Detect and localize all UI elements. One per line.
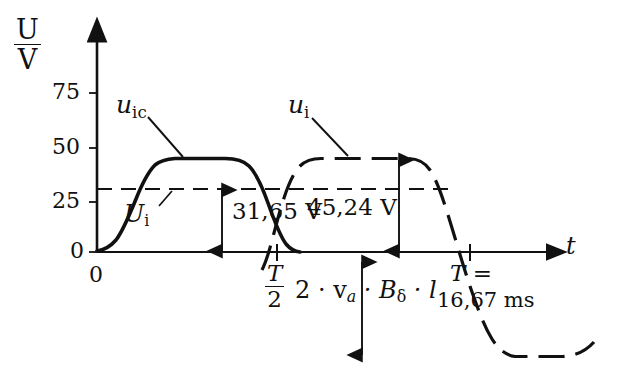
level-label-ui-subscript: i (144, 211, 149, 230)
y-tick-label-0: 0 (70, 240, 84, 262)
curve-label-ui-symbol: u (288, 90, 304, 119)
period-symbol: T = (450, 260, 492, 286)
half-period-denominator: 2 (265, 288, 284, 311)
y-tick-label-25: 25 (52, 190, 80, 212)
curve-label-uic: uic (116, 92, 147, 121)
y-axis-quantity: U (14, 16, 41, 43)
curve-ui (262, 159, 594, 357)
y-axis-unit: V (14, 46, 41, 73)
flux-term-part-2: · B (356, 276, 397, 304)
x-origin-label: 0 (89, 264, 103, 286)
flux-term-sub-a: a (347, 287, 356, 306)
waveform-diagram (0, 0, 619, 386)
y-tick-label-50: 50 (52, 136, 80, 158)
x-tick-value-period: 16,67 ms (437, 290, 534, 311)
flux-term-part-1: 2 · v (295, 276, 347, 304)
leader-uic (148, 117, 183, 157)
curve-label-uic-symbol: u (116, 90, 132, 119)
curve-label-uic-subscript: ic (132, 103, 147, 122)
leader-level-ui (159, 191, 172, 206)
dimension-label-flux-term: 2 · va · Bδ · l (295, 278, 437, 305)
x-tick-label-half-period: T 2 (265, 262, 284, 311)
flux-term-sub-delta: δ (397, 287, 407, 306)
x-tick-label-period: T = (450, 262, 492, 285)
x-axis-title: t (566, 234, 576, 258)
half-period-numerator: T (265, 262, 284, 285)
x-axis (97, 244, 548, 261)
curve-label-ui: ui (288, 92, 309, 121)
leader-ui (312, 118, 348, 156)
level-label-ui: Ui (124, 202, 149, 229)
dimension-label-45-24: 45,24 V (307, 196, 397, 219)
y-axis (89, 40, 97, 252)
flux-term-part-3: · l (406, 276, 437, 304)
curve-label-ui-subscript: i (304, 103, 309, 122)
y-tick-label-75: 75 (52, 81, 80, 103)
y-axis-title: U V (14, 16, 41, 73)
level-label-ui-symbol: U (124, 200, 144, 228)
